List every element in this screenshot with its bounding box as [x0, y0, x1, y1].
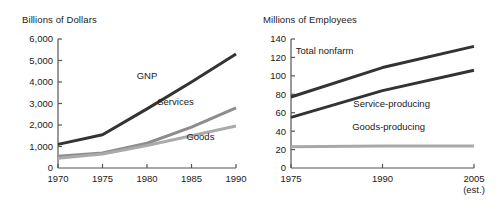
y-axis-tick-label: 0: [281, 162, 286, 173]
y-axis-tick-label: 20: [275, 144, 286, 155]
x-axis-tick-label: 1990: [372, 173, 393, 184]
series-label-goods-producing: Goods-producing: [352, 121, 425, 132]
chart-svg-right: 020406080100120140197519902005(est.)Tota…: [0, 0, 502, 211]
y-axis-tick-label: 120: [270, 52, 286, 63]
series-label-service-producing: Service-producing: [353, 98, 430, 109]
series-line-service-producing: [291, 70, 474, 117]
y-axis-tick-label: 100: [270, 70, 286, 81]
chart-panel-employment: Millions of Employees 020406080100120140…: [251, 0, 502, 211]
x-axis-tick-label: 1975: [280, 173, 301, 184]
x-axis-estimate-label: (est.): [463, 184, 485, 195]
series-line-goods-producing: [291, 146, 474, 147]
y-axis-tick-label: 40: [275, 126, 286, 137]
y-axis-tick-label: 80: [275, 89, 286, 100]
series-label-total-nonfarm: Total nonfarm: [296, 45, 354, 56]
y-axis-tick-label: 60: [275, 107, 286, 118]
figure-container: Billions of Dollars 01,0002,0003,0004,00…: [0, 0, 502, 211]
y-axis-tick-label: 140: [270, 33, 286, 44]
x-axis-tick-label: 2005: [463, 173, 484, 184]
